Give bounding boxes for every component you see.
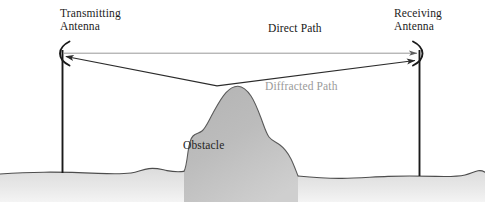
transmitting-antenna-label: Transmitting Antenna xyxy=(60,7,121,33)
ground-fill-right xyxy=(298,171,485,202)
diffracted-path-label: Diffracted Path xyxy=(265,80,338,93)
direct-path-label: Direct Path xyxy=(268,22,322,35)
obstacle-label: Obstacle xyxy=(183,139,224,152)
diffraction-diagram: Transmitting Antenna Receiving Antenna D… xyxy=(0,0,485,202)
diffracted-path-line xyxy=(66,57,415,86)
receiving-antenna-label: Receiving Antenna xyxy=(394,7,442,33)
